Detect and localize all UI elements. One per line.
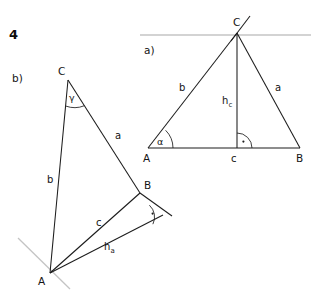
figure-b-altitude-label-subscript: a xyxy=(111,247,115,255)
figure-a-side-a xyxy=(237,33,300,148)
figure-b-side-label-a: a xyxy=(115,130,121,141)
figure-b-vertex-label-B: B xyxy=(144,179,151,191)
figure-b-side-a xyxy=(68,80,140,193)
figure-b-vertex-label-A: A xyxy=(38,275,46,287)
figure-b-side-c xyxy=(50,193,140,273)
figure-a-altitude-label-h: h xyxy=(222,95,228,106)
right-angle-dot-icon-b xyxy=(152,213,154,215)
figure-a-vertex-label-A: A xyxy=(143,152,151,164)
figure-a-vertex-label-B: B xyxy=(296,152,303,164)
figure-b-angle-label-gamma: γ xyxy=(69,92,75,103)
figure-a-side-label-a: a xyxy=(275,82,281,93)
figure-a-altitude-label-subscript: c xyxy=(229,101,233,109)
figure-b-altitude-label-h: h xyxy=(104,241,110,252)
worksheet-page: 4 a) A B C b xyxy=(0,0,311,293)
figure-a-angle-label-alpha: α xyxy=(157,136,163,147)
figure-a-side-b xyxy=(148,33,237,148)
right-angle-arc-icon-a xyxy=(237,133,252,148)
figure-a-vertex-label-C: C xyxy=(233,16,240,28)
figure-b-side-label-b: b xyxy=(47,174,53,185)
figure-a-side-label-b: b xyxy=(179,82,185,93)
figure-b-group: b) A B C b a c h a γ xyxy=(12,65,172,289)
figure-b-angle-gamma-arc xyxy=(66,106,85,108)
figure-a-side-label-c: c xyxy=(231,153,237,164)
figure-a-part-label: a) xyxy=(144,44,155,56)
figure-b-part-label: b) xyxy=(12,72,23,84)
geometry-figures-canvas: a) A B C b a c h c α xyxy=(0,0,311,293)
figure-b-vertex-label-C: C xyxy=(58,65,65,77)
figure-b-side-a-extension xyxy=(140,193,172,216)
figure-a-angle-alpha-arc xyxy=(166,130,173,148)
figure-a-group: a) A B C b a c h c α xyxy=(140,16,311,164)
figure-b-side-label-c: c xyxy=(96,217,102,228)
right-angle-dot-icon-a xyxy=(242,141,244,143)
